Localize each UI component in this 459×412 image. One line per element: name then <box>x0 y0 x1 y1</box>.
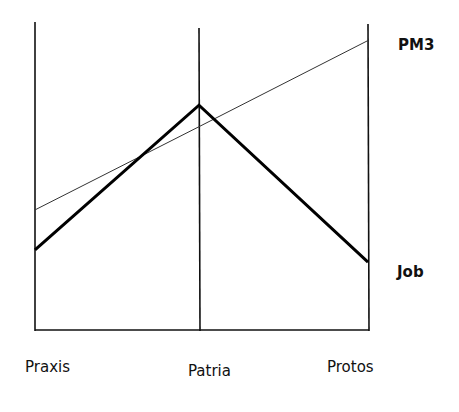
x-label-protos: Protos <box>327 358 374 376</box>
series-label-pm3: PM3 <box>398 36 434 54</box>
series-label-job: Job <box>397 263 424 281</box>
series-pm3-line <box>35 41 368 210</box>
axis-protos <box>368 24 369 331</box>
series-job-line <box>35 105 368 262</box>
x-label-patria: Patria <box>188 362 231 380</box>
chart-canvas <box>0 0 459 412</box>
x-label-praxis: Praxis <box>25 358 70 376</box>
axis-patria <box>199 28 200 331</box>
